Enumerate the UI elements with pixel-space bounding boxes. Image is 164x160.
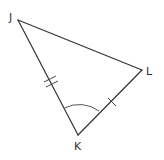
- vertex-label-l: L: [146, 65, 153, 78]
- side-jk: [18, 20, 78, 135]
- triangle-jkl-diagram: J L K: [0, 0, 164, 160]
- angle-arc-k: [65, 104, 100, 111]
- double-tick-mark-jk: [44, 76, 58, 87]
- side-kl: [78, 70, 142, 135]
- side-jl: [18, 20, 142, 70]
- single-tick-mark-kl: [108, 98, 116, 106]
- vertex-label-k: K: [74, 140, 82, 153]
- vertex-label-j: J: [8, 11, 12, 24]
